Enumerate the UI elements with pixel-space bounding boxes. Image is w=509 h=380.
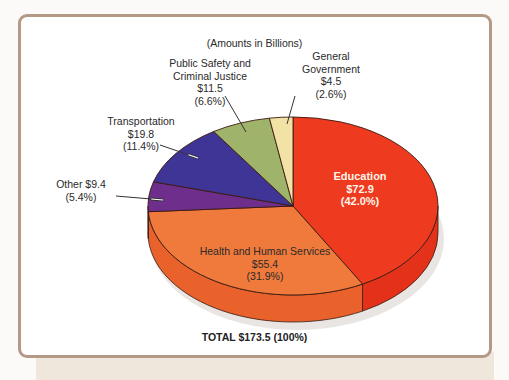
leader-other-stem (116, 196, 151, 199)
label-general-government: General Government $4.5 (2.6%) (286, 50, 376, 100)
label-public-safety: Public Safety and Criminal Justice $11.5… (150, 57, 270, 107)
label-other: Other $9.4 (5.4%) (46, 178, 116, 203)
label-transportation: Transportation $19.8 (11.4%) (96, 115, 186, 153)
chart-total: TOTAL $173.5 (100%) (0, 331, 509, 343)
label-health: Health and Human Services $55.4 (31.9%) (180, 245, 350, 283)
chart-subtitle: (Amounts in Billions) (0, 37, 509, 49)
label-education: Education $72.9 (42.0%) (320, 170, 400, 208)
